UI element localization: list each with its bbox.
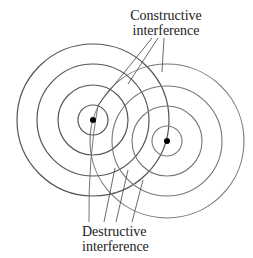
source-2-dot: [164, 138, 170, 144]
constructive-label-line2: interference: [128, 23, 204, 38]
destructive-label: Destructive interference: [82, 224, 146, 254]
destructive-label-line2: interference: [82, 239, 146, 254]
constructive-label-line1: Constructive: [128, 8, 204, 23]
interference-diagram: Constructive interference Destructive in…: [0, 0, 253, 258]
constructive-pointers: [98, 38, 164, 105]
destructive-pointers: [104, 168, 143, 222]
constructive-label: Constructive interference: [128, 8, 204, 38]
destructive-label-line1: Destructive: [82, 224, 146, 239]
source-1-dot: [90, 117, 96, 123]
wave-circles: [0, 0, 253, 258]
